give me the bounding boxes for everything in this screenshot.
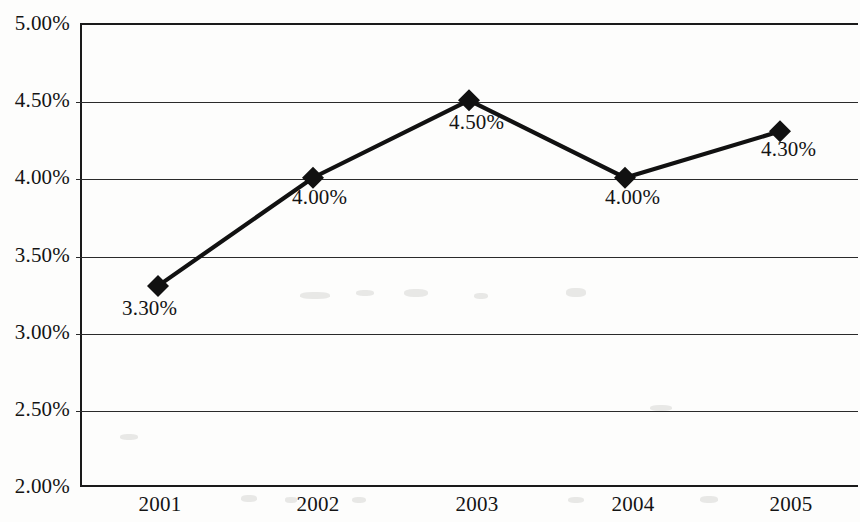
y-tick-label: 4.50% bbox=[0, 88, 70, 113]
gridline-2.50 bbox=[82, 411, 858, 412]
data-point-label-2004: 4.00% bbox=[605, 185, 660, 210]
scan-artifact bbox=[241, 495, 257, 502]
data-point-label-2003: 4.50% bbox=[449, 110, 504, 135]
x-tick-label-2004: 2004 bbox=[573, 492, 693, 517]
y-tick-label: 5.00% bbox=[0, 11, 70, 36]
data-point-label-2005: 4.30% bbox=[761, 137, 816, 162]
x-tick-label-2003: 2003 bbox=[417, 492, 537, 517]
tick-mark-4.00 bbox=[76, 179, 82, 180]
gridline-4.50 bbox=[82, 102, 858, 103]
tick-mark-3.00 bbox=[76, 334, 82, 335]
plot-area bbox=[80, 23, 858, 487]
gridline-3.50 bbox=[82, 257, 858, 258]
y-tick-label: 3.50% bbox=[0, 243, 70, 268]
y-tick-label: 2.00% bbox=[0, 474, 70, 499]
gridline-3.00 bbox=[82, 334, 858, 335]
scan-artifact bbox=[700, 496, 718, 503]
x-tick-label-2001: 2001 bbox=[100, 492, 220, 517]
data-point-label-2001: 3.30% bbox=[122, 296, 177, 321]
x-tick-label-2002: 2002 bbox=[258, 492, 378, 517]
y-tick-label: 3.00% bbox=[0, 320, 70, 345]
gridline-4.00 bbox=[82, 179, 858, 180]
tick-mark-2.50 bbox=[76, 411, 82, 412]
data-point-label-2002: 4.00% bbox=[292, 185, 347, 210]
y-tick-label: 4.00% bbox=[0, 165, 70, 190]
y-tick-label: 2.50% bbox=[0, 397, 70, 422]
tick-mark-4.50 bbox=[76, 102, 82, 103]
line-chart: 5.00% 4.50% 4.00% 3.50% 3.00% 2.50% 2.00… bbox=[0, 0, 860, 522]
tick-mark-3.50 bbox=[76, 257, 82, 258]
x-tick-label-2005: 2005 bbox=[731, 492, 851, 517]
